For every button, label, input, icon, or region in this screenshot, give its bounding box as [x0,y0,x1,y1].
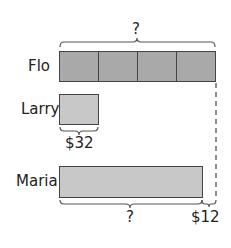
maria-brace [60,200,202,208]
difference-brace [202,200,216,207]
maria-difference-label: $12 [191,210,220,225]
flo-total-label: ? [132,22,140,37]
flo-brace [60,38,215,47]
larry-value-label: $32 [65,136,94,151]
maria-total-label: ? [126,210,134,225]
